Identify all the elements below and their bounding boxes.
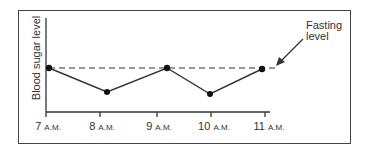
fasting-level-annotation: Fasting level xyxy=(306,20,342,42)
x-tick-label: 7 A.M. xyxy=(35,120,61,132)
x-tick-label: 10 A.M. xyxy=(198,120,230,132)
annotation-arrow xyxy=(280,39,303,62)
y-axis-label: Blood sugar level xyxy=(30,16,42,100)
x-tick-label: 9 A.M. xyxy=(146,120,172,132)
x-tick-label: 8 A.M. xyxy=(89,120,115,132)
x-ticks xyxy=(46,112,265,117)
annotation-line-2: level xyxy=(306,31,342,42)
x-tick-label: 11 A.M. xyxy=(254,120,285,132)
blood-sugar-series xyxy=(49,68,262,94)
